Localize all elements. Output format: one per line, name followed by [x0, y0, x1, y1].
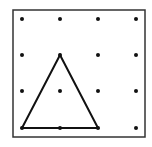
grid-dot [20, 17, 24, 21]
grid-dot [134, 126, 138, 130]
grid-dot [58, 89, 62, 93]
grid-dot [96, 17, 100, 21]
grid-dot [58, 17, 62, 21]
grid-dot [96, 89, 100, 93]
grid-dot [58, 126, 62, 130]
board-frame [13, 10, 145, 137]
grid-dot [134, 53, 138, 57]
grid-dot [20, 53, 24, 57]
grid-dot [134, 17, 138, 21]
grid-dot [20, 126, 24, 130]
grid-dot [20, 89, 24, 93]
grid-dot [58, 53, 62, 57]
grid-dot [96, 126, 100, 130]
grid-dot [96, 53, 100, 57]
grid-dots [20, 17, 138, 130]
geoboard-diagram [0, 0, 152, 147]
grid-dot [134, 89, 138, 93]
